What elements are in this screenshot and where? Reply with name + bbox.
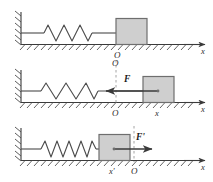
panel-compressed: x F' x' O <box>15 126 205 176</box>
position-label-x-prime: x' <box>108 166 115 176</box>
axis-label: x <box>200 104 205 114</box>
ground <box>20 103 196 109</box>
wall <box>15 11 21 45</box>
ground <box>20 45 196 51</box>
force-application-point <box>157 90 160 93</box>
wall-hatching <box>15 11 21 45</box>
spring <box>21 141 99 157</box>
ground <box>20 161 196 167</box>
block <box>116 19 147 45</box>
figure-canvas: x O <box>0 0 213 182</box>
block <box>99 135 130 161</box>
wall-hatching <box>15 127 21 161</box>
panel-equilibrium: x O <box>15 11 205 60</box>
wall <box>15 127 21 161</box>
axis-label: x <box>200 162 205 172</box>
block <box>143 77 174 103</box>
ground-hatching <box>20 45 193 51</box>
spring-force-diagram: x O <box>0 0 213 182</box>
wall <box>15 69 21 103</box>
spring <box>21 25 116 41</box>
panel-stretched: x F O O x <box>15 58 205 118</box>
position-label-x: x <box>154 108 159 118</box>
ground-hatching <box>20 161 193 167</box>
origin-label-bottom: O <box>112 108 119 118</box>
origin-label-top: O <box>112 58 119 68</box>
force-application-point <box>113 148 116 151</box>
ground-hatching <box>20 103 193 109</box>
force-label-F-prime: F' <box>135 132 145 142</box>
origin-label-bottom: O <box>131 166 138 176</box>
wall-hatching <box>15 69 21 103</box>
axis-label: x <box>200 46 205 56</box>
force-label-F: F <box>123 74 131 84</box>
